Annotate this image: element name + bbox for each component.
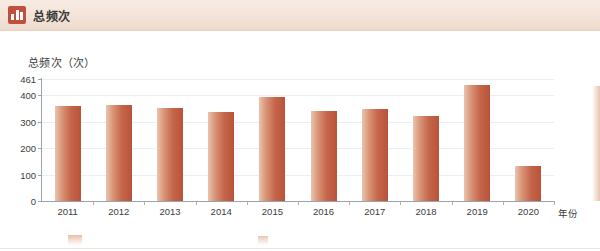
bar — [464, 85, 490, 201]
y-tick-label: 200 — [20, 143, 36, 154]
panel-header: 总频次 — [0, 0, 600, 31]
chart-panel: 总频次（次） 0100200300400461 年份 2011201220132… — [0, 31, 600, 251]
gridline — [42, 79, 554, 80]
x-tick-label: 2011 — [45, 206, 91, 217]
x-tick-label: 2018 — [403, 206, 449, 217]
x-tick-mark — [554, 201, 555, 205]
y-tick-mark — [38, 175, 42, 176]
x-tick-label: 2017 — [352, 206, 398, 217]
bar — [208, 112, 234, 201]
bar — [157, 108, 183, 201]
plot-area: 0100200300400461 — [42, 79, 554, 201]
y-tick-mark — [38, 122, 42, 123]
bar — [106, 105, 132, 201]
y-tick-label: 400 — [20, 90, 36, 101]
bar — [311, 111, 337, 201]
y-tick-label: 461 — [20, 74, 36, 85]
panel-title: 总频次 — [33, 7, 71, 24]
scan-edge-artifact-right — [592, 86, 600, 201]
x-tick-label: 2012 — [96, 206, 142, 217]
x-tick-label: 2020 — [505, 206, 551, 217]
y-tick-mark — [38, 201, 42, 202]
x-tick-label: 2016 — [301, 206, 347, 217]
x-axis-label: 年份 — [558, 206, 578, 220]
x-tick-label: 2019 — [454, 206, 500, 217]
x-tick-mark — [196, 201, 197, 205]
y-tick-label: 100 — [20, 169, 36, 180]
x-tick-mark — [93, 201, 94, 205]
y-tick-mark — [38, 95, 42, 96]
chart-title: 总频次（次） — [28, 54, 96, 70]
bar — [515, 166, 541, 201]
x-tick-mark — [503, 201, 504, 205]
x-tick-mark — [144, 201, 145, 205]
y-tick-mark — [38, 148, 42, 149]
x-tick-label: 2014 — [198, 206, 244, 217]
x-tick-label: 2015 — [249, 206, 295, 217]
y-tick-mark — [38, 79, 42, 80]
y-tick-label: 0 — [31, 196, 36, 207]
x-tick-mark — [452, 201, 453, 205]
x-tick-mark — [349, 201, 350, 205]
x-tick-mark — [247, 201, 248, 205]
scan-edge-artifact-center — [258, 236, 268, 245]
x-tick-mark — [400, 201, 401, 205]
y-tick-label: 300 — [20, 116, 36, 127]
bar — [55, 106, 81, 201]
x-tick-mark — [298, 201, 299, 205]
bar — [413, 116, 439, 201]
x-tick-label: 2013 — [147, 206, 193, 217]
page-bottom-rule — [0, 248, 600, 249]
scan-edge-artifact-left — [68, 235, 82, 245]
bar-chart-icon — [8, 6, 26, 24]
bar — [362, 109, 388, 201]
bar — [259, 97, 285, 201]
